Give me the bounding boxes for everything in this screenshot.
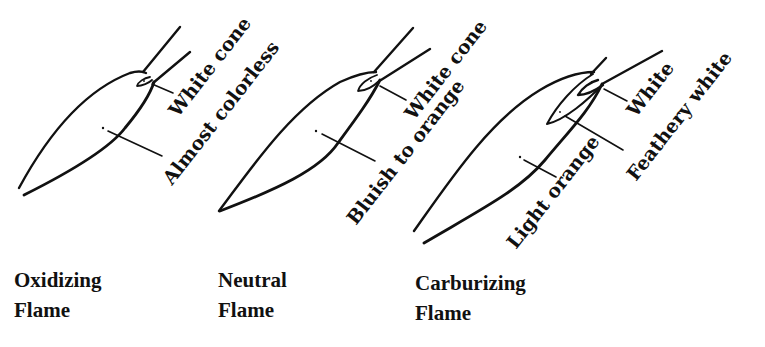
oxidizing-cone-dot <box>143 80 145 82</box>
oxidizing-envelope-dot <box>102 127 104 129</box>
caption-oxidizing-line1: Oxidizing <box>14 265 102 295</box>
flame-types-diagram: White cone Almost colorless White cone B… <box>0 0 765 347</box>
caption-neutral: Neutral Flame <box>218 265 287 325</box>
caption-neutral-line2: Flame <box>218 295 287 325</box>
carburizing-cone-dot <box>591 81 593 83</box>
neutral-leader-envelope <box>322 134 375 161</box>
caption-oxidizing: Oxidizing Flame <box>14 265 102 325</box>
oxidizing-leader-envelope <box>108 131 162 156</box>
neutral-leader-white-cone <box>380 86 406 100</box>
oxidizing-envelope-lower <box>24 82 154 195</box>
oxidizing-torch-line-lower <box>153 52 190 83</box>
neutral-envelope-dot <box>315 130 317 132</box>
neutral-torch-line-lower <box>381 49 430 80</box>
oxidizing-leader-white-cone <box>152 84 173 93</box>
neutral-cone-dot <box>370 80 372 82</box>
caption-oxidizing-line2: Flame <box>14 295 102 325</box>
carburizing-feather-dot <box>559 111 561 113</box>
neutral-torch-line-upper <box>374 28 413 72</box>
caption-carburizing: Carburizing Flame <box>415 268 526 328</box>
caption-carburizing-line2: Flame <box>415 298 526 328</box>
neutral-label-envelope: Bluish to orange <box>342 75 469 229</box>
carburizing-leader-white <box>604 89 627 101</box>
oxidizing-envelope-upper <box>19 72 146 189</box>
carburizing-envelope-dot <box>519 156 521 158</box>
caption-carburizing-line1: Carburizing <box>415 268 526 298</box>
caption-neutral-line1: Neutral <box>218 265 287 295</box>
